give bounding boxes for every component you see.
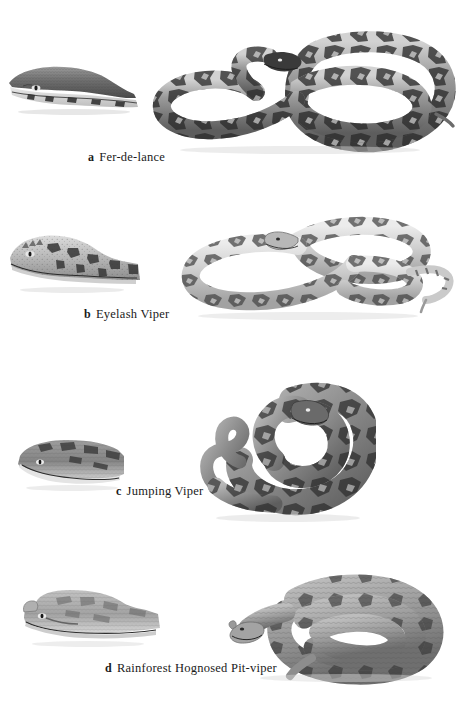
upturned-rostral-snout: [23, 601, 37, 612]
figure-b-label: b: [84, 307, 91, 321]
illustration-plate: aFer-de-lance: [0, 0, 460, 718]
eyelash-viper-head-svg: [6, 228, 151, 300]
eyelash-viper-body-svg: [178, 212, 460, 330]
fer-de-lance-body-svg: [140, 22, 456, 162]
pupil: [41, 614, 44, 619]
pupil: [29, 252, 32, 257]
figure-a-label: a: [88, 150, 94, 164]
figure-b-name: Eyelash Viper: [96, 307, 169, 321]
jumping-viper-body-svg: [196, 372, 376, 532]
body-coil-inner-keels: [318, 623, 397, 655]
body-head-eye: [240, 627, 244, 630]
drop-shadow: [260, 674, 432, 682]
figure-c-caption: cJumping Viper: [116, 485, 204, 498]
figure-a-caption: aFer-de-lance: [88, 151, 165, 164]
figure-c-body-illustration: [196, 372, 376, 532]
drop-shadow: [20, 287, 124, 293]
figure-d-head-illustration: [18, 580, 168, 650]
figure-d-label: d: [105, 661, 112, 675]
drop-shadow: [32, 641, 144, 647]
figure-b-body-illustration: [178, 212, 460, 330]
body-head-eye: [278, 58, 282, 61]
fer-de-lance-head-svg: [6, 62, 151, 122]
figure-c-label: c: [116, 484, 122, 498]
figure-a-body-illustration: [140, 22, 456, 162]
drop-shadow: [26, 485, 118, 491]
figure-c-name: Jumping Viper: [127, 484, 204, 498]
pupil: [39, 460, 42, 464]
figure-b-head-illustration: [6, 228, 151, 300]
drop-shadow: [18, 109, 130, 115]
body-head-eye: [276, 238, 280, 241]
figure-b-caption: bEyelash Viper: [84, 308, 169, 321]
figure-a-name: Fer-de-lance: [99, 150, 165, 164]
figure-d-caption: dRainforest Hognosed Pit-viper: [105, 662, 277, 675]
body-coil-left-pattern: [162, 80, 296, 131]
pupil: [34, 86, 37, 91]
body-coil-middle-pattern: [298, 75, 422, 133]
drop-shadow: [180, 146, 420, 154]
figure-d-name: Rainforest Hognosed Pit-viper: [117, 661, 277, 675]
drop-shadow: [216, 514, 360, 522]
drop-shadow: [198, 312, 418, 320]
body-head-upturned-snout: [229, 621, 236, 629]
figure-a-head-illustration: [6, 62, 151, 122]
hognosed-pitviper-head-svg: [18, 580, 168, 650]
body-head-eye: [306, 408, 311, 411]
